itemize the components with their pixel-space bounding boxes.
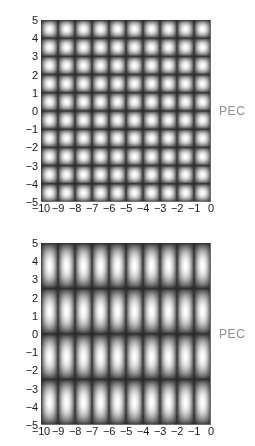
x-tick-label: −8	[69, 426, 81, 437]
y-tick-label: 4	[4, 33, 38, 44]
x-tick-label: 0	[208, 426, 214, 437]
pec-label-top: PEC	[219, 104, 245, 118]
x-tick-label: −7	[86, 426, 98, 437]
y-tick-label: 1	[4, 310, 38, 321]
y-tick-label: −1	[4, 124, 38, 135]
x-tick-label: −4	[137, 203, 149, 214]
x-tick-label: −10	[32, 203, 50, 214]
y-tick-label: 4	[4, 256, 38, 267]
panel-top: 543210−1−2−3−4−5 −10−9−8−7−6−5−4−3−2−10 …	[0, 0, 255, 223]
y-tick-label: 5	[4, 238, 38, 249]
x-tick-label: −9	[52, 203, 64, 214]
y-tick-label: 0	[4, 106, 38, 117]
y-tick-label: −4	[4, 401, 38, 412]
x-tick-label: −1	[188, 203, 200, 214]
y-tick-label: −4	[4, 178, 38, 189]
x-tick-label: −8	[69, 203, 81, 214]
y-tick-label: 2	[4, 69, 38, 80]
y-tick-label: −3	[4, 160, 38, 171]
heatmap-top-canvas	[41, 20, 211, 202]
x-tick-label: −7	[86, 203, 98, 214]
y-tick-label: −1	[4, 347, 38, 358]
x-tick-label: −5	[120, 203, 132, 214]
x-tick-label: −10	[32, 426, 50, 437]
pec-label-bottom: PEC	[219, 327, 245, 341]
y-tick-label: 0	[4, 329, 38, 340]
y-tick-label: 1	[4, 87, 38, 98]
x-tick-label: −9	[52, 426, 64, 437]
y-tick-label: 3	[4, 51, 38, 62]
x-tick-label: 0	[208, 203, 214, 214]
heatmap-top	[41, 20, 211, 202]
x-tick-label: −2	[171, 203, 183, 214]
y-tick-label: −3	[4, 383, 38, 394]
panel-bottom: 543210−1−2−3−4−5 −10−9−8−7−6−5−4−3−2−10 …	[0, 223, 255, 446]
x-tick-label: −4	[137, 426, 149, 437]
x-tick-label: −2	[171, 426, 183, 437]
heatmap-bottom	[41, 243, 211, 425]
x-axis-bottom: −10−9−8−7−6−5−4−3−2−10	[0, 426, 255, 446]
y-axis-top: 543210−1−2−3−4−5	[0, 0, 38, 223]
y-tick-label: −2	[4, 142, 38, 153]
x-tick-label: −1	[188, 426, 200, 437]
y-tick-label: 2	[4, 292, 38, 303]
x-axis-top: −10−9−8−7−6−5−4−3−2−10	[0, 203, 255, 223]
x-tick-label: −3	[154, 203, 166, 214]
x-tick-label: −6	[103, 426, 115, 437]
y-tick-label: 3	[4, 274, 38, 285]
heatmap-bottom-canvas	[41, 243, 211, 425]
y-axis-bottom: 543210−1−2−3−4−5	[0, 223, 38, 446]
y-tick-label: 5	[4, 15, 38, 26]
x-tick-label: −5	[120, 426, 132, 437]
y-tick-label: −2	[4, 365, 38, 376]
x-tick-label: −3	[154, 426, 166, 437]
x-tick-label: −6	[103, 203, 115, 214]
